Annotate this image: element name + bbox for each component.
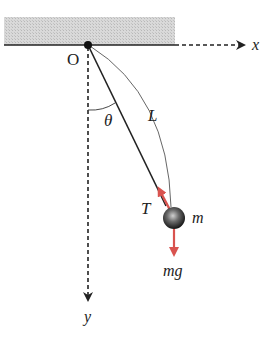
pendulum-bob (163, 207, 185, 229)
tension-arrow (159, 189, 170, 210)
weight-label: mg (163, 262, 183, 280)
x-axis-label: x (251, 36, 259, 53)
origin-label: O (67, 50, 79, 69)
length-label: L (147, 106, 157, 125)
pendulum-diagram: O x y θ L T m mg (0, 0, 278, 341)
pendulum-rod (88, 45, 166, 206)
mass-label: m (192, 209, 204, 226)
pivot-point (84, 41, 92, 49)
angle-label: θ (104, 111, 112, 130)
ceiling-support (4, 17, 175, 45)
y-axis-label: y (82, 308, 92, 326)
angle-arc (88, 103, 115, 110)
length-arc (90, 46, 171, 207)
tension-label: T (141, 199, 152, 218)
